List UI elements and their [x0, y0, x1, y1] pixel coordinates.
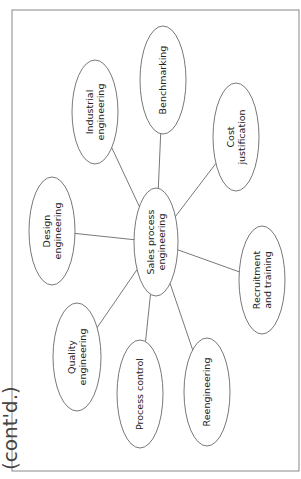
- node-recruitment-and-training: Recruitmentand training: [239, 226, 285, 334]
- connector-quality-engineering: [97, 270, 137, 328]
- node-quality-engineering: Qualityengineering: [53, 303, 101, 411]
- diagram-canvas: BenchmarkingIndustrialengineeringCostjus…: [0, 0, 301, 479]
- node-process-control: Process control: [117, 340, 163, 448]
- node-label: Sales processengineering: [145, 210, 168, 275]
- connector-industrial-engineering: [112, 148, 140, 207]
- node-design-engineering: Designengineering: [29, 177, 75, 285]
- connector-reengineering: [170, 283, 193, 349]
- connector-process-control: [146, 294, 151, 341]
- continuation-label: (cont'd.): [0, 400, 24, 470]
- node-cost-justification: Costjustification: [213, 83, 259, 191]
- connector-recruitment-and-training: [178, 250, 239, 272]
- node-label: Reengineering: [201, 358, 212, 427]
- connector-design-engineering: [75, 233, 134, 239]
- mind-map-diagram: BenchmarkingIndustrialengineeringCostjus…: [0, 0, 301, 479]
- node-group: BenchmarkingIndustrialengineeringCostjus…: [29, 26, 285, 448]
- connector-benchmarking: [158, 134, 160, 189]
- node-label: Industrialengineering: [84, 84, 107, 141]
- center-node-sales-process-engineering: Sales processengineering: [134, 188, 178, 296]
- node-label: Benchmarking: [157, 46, 168, 115]
- node-label: Process control: [134, 358, 145, 430]
- node-reengineering: Reengineering: [184, 338, 230, 446]
- connector-cost-justification: [175, 163, 216, 216]
- node-industrial-engineering: Industrialengineering: [72, 60, 118, 164]
- node-label: Recruitmentand training: [251, 251, 273, 310]
- node-benchmarking: Benchmarking: [140, 26, 186, 134]
